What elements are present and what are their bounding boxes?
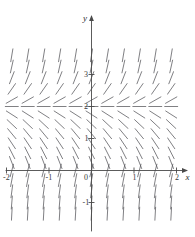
x-axis-label: x	[186, 173, 190, 182]
y-axis-label: y	[83, 14, 87, 23]
y-tick-label--1: -1	[83, 199, 90, 207]
slope-field-figure: y x 0 -2 -1 1 2 3 2 1 -1	[0, 0, 195, 237]
x-tick-label--1: -1	[46, 174, 53, 182]
slope-field-canvas	[0, 0, 195, 237]
y-tick-label-2: 2	[84, 103, 88, 111]
x-tick-label-2: 2	[175, 174, 179, 182]
origin-label: 0	[84, 174, 88, 182]
y-tick-label-3: 3	[84, 71, 88, 79]
y-tick-label-1: 1	[85, 135, 89, 143]
x-tick-label--2: -2	[3, 174, 10, 182]
x-tick-label-1: 1	[133, 174, 137, 182]
